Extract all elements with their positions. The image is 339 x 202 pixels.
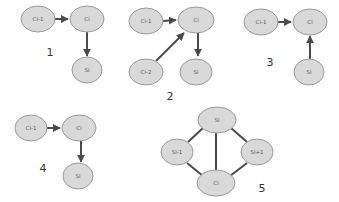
diagram-1: Ci-1 Ci Si 1 [21, 6, 104, 83]
diagram-5: Si Si-1 Si+1 Ci 5 [161, 107, 273, 196]
diagram-number-5: 5 [259, 182, 266, 195]
diagram-canvas: Ci-1 Ci Si 1 Ci-1 Ci Ci-2 Si [0, 0, 339, 202]
node-si: Si [63, 163, 93, 189]
svg-text:Si: Si [306, 69, 311, 75]
svg-text:Si-1: Si-1 [172, 149, 183, 155]
svg-text:Si+1: Si+1 [250, 149, 263, 155]
edge-ci-1-to-ci [163, 20, 176, 21]
node-si: Si [198, 107, 236, 133]
svg-text:Ci: Ci [84, 16, 90, 22]
svg-text:Ci-1: Ci-1 [256, 19, 267, 25]
node-si: Si [294, 59, 324, 85]
node-ci-1: Ci-1 [244, 9, 278, 35]
node-si: Si [180, 59, 212, 85]
node-si: Si [72, 57, 102, 83]
edge-si-1-ci [187, 163, 203, 176]
edge-si+1-ci [230, 163, 247, 176]
svg-text:Ci: Ci [213, 180, 219, 186]
svg-text:Si: Si [84, 67, 89, 73]
svg-text:Si: Si [214, 117, 219, 123]
edge-si-si+1 [231, 128, 247, 142]
node-ci-1: Ci-1 [21, 6, 55, 32]
node-ci: Ci [197, 170, 235, 196]
svg-text:Ci: Ci [307, 19, 313, 25]
svg-text:Ci: Ci [193, 17, 199, 23]
node-ci-1: Ci-1 [129, 8, 163, 34]
svg-text:Ci-2: Ci-2 [141, 69, 152, 75]
node-ci-1: Ci-1 [15, 115, 47, 141]
edge-ci-2-to-ci [156, 33, 184, 61]
svg-text:Si: Si [75, 173, 80, 179]
node-si-1: Si-1 [161, 139, 193, 165]
svg-text:Ci: Ci [76, 125, 82, 131]
diagram-number-2: 2 [167, 90, 174, 103]
node-ci: Ci [70, 6, 104, 32]
svg-text:Ci-1: Ci-1 [33, 16, 44, 22]
node-si+1: Si+1 [241, 139, 273, 165]
diagram-number-4: 4 [40, 162, 47, 175]
node-ci: Ci [178, 7, 214, 33]
svg-text:Ci-1: Ci-1 [141, 18, 152, 24]
node-ci: Ci [293, 9, 327, 35]
diagram-3: Ci-1 Ci Si 3 [244, 9, 327, 85]
svg-text:Ci-1: Ci-1 [26, 125, 37, 131]
node-ci-2: Ci-2 [129, 59, 163, 85]
diagram-4: Ci-1 Ci Si 4 [15, 115, 96, 189]
diagram-number-1: 1 [47, 46, 54, 59]
diagram-number-3: 3 [267, 56, 274, 69]
node-ci: Ci [62, 115, 96, 141]
svg-text:Si: Si [193, 69, 198, 75]
edge-si-si-1 [188, 128, 203, 142]
diagram-2: Ci-1 Ci Ci-2 Si 2 [129, 7, 214, 103]
